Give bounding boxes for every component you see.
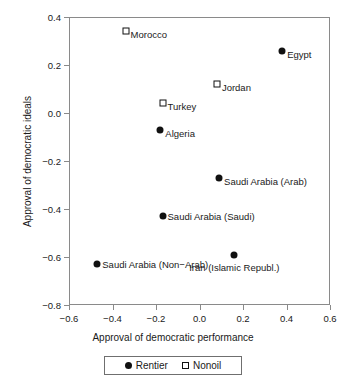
x-axis-tick xyxy=(287,305,288,310)
x-axis-tick-label: 0.6 xyxy=(323,313,336,324)
x-axis-tick-label: −0.6 xyxy=(60,313,79,324)
y-axis-tick xyxy=(64,65,69,66)
x-axis-tick xyxy=(200,305,201,310)
y-axis-tick xyxy=(64,161,69,162)
legend-item-nonoil: Nonoil xyxy=(182,360,221,371)
scatter-chart-figure: −0.8−0.6−0.4−0.20.00.20.4−0.6−0.4−0.20.0… xyxy=(0,0,346,381)
data-point-label: Jordan xyxy=(222,82,251,93)
x-axis-tick xyxy=(330,305,331,310)
data-point-label: Egypt xyxy=(287,49,311,60)
x-axis-tick-label: −0.2 xyxy=(147,313,166,324)
data-point-rentier xyxy=(231,251,238,258)
x-axis-tick xyxy=(69,305,70,310)
legend-item-rentier: Rentier xyxy=(125,360,168,371)
y-axis-tick xyxy=(64,17,69,18)
x-axis-tick-label: −0.4 xyxy=(103,313,122,324)
x-axis-tick xyxy=(113,305,114,310)
data-point-label: Iran (Islamic Republ.) xyxy=(189,262,279,273)
y-axis-tick xyxy=(64,113,69,114)
data-point-label: Algeria xyxy=(165,128,195,139)
x-axis-title: Approval of democratic performance xyxy=(0,332,346,343)
x-axis-tick xyxy=(156,305,157,310)
data-point-rentier xyxy=(279,47,286,54)
chart-legend: Rentier Nonoil xyxy=(104,356,242,375)
x-axis-tick-label: 0.0 xyxy=(193,313,206,324)
data-point-label: Saudi Arabia (Arab) xyxy=(224,176,307,187)
legend-label-nonoil: Nonoil xyxy=(193,360,221,371)
data-point-rentier xyxy=(216,174,223,181)
data-point-rentier xyxy=(159,213,166,220)
data-point-label: Saudi Arabia (Saudi) xyxy=(168,211,255,222)
data-point-label: Morocco xyxy=(131,29,167,40)
data-point-rentier xyxy=(157,126,164,133)
open-square-icon xyxy=(182,362,189,369)
data-point-nonoil xyxy=(213,81,220,88)
y-axis-tick xyxy=(64,209,69,210)
data-point-rentier xyxy=(94,261,101,268)
x-axis-tick-label: 0.4 xyxy=(280,313,293,324)
legend-label-rentier: Rentier xyxy=(136,360,168,371)
y-axis-tick xyxy=(64,257,69,258)
y-axis-title: Approval of democratic ideals xyxy=(22,17,33,307)
x-axis-tick xyxy=(243,305,244,310)
x-axis-tick-label: 0.2 xyxy=(236,313,249,324)
data-point-label: Turkey xyxy=(168,101,197,112)
data-point-nonoil xyxy=(159,100,166,107)
filled-circle-icon xyxy=(125,362,132,369)
data-point-nonoil xyxy=(122,28,129,35)
